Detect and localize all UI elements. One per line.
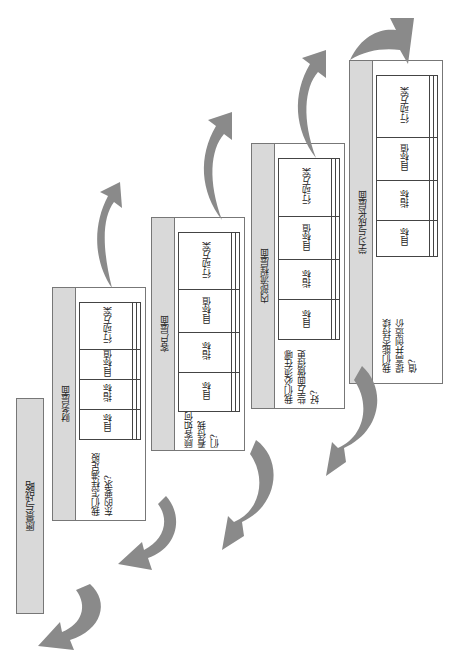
panel-customer-title: 客户层面 [157, 316, 170, 352]
panel-customer: 客户层面 行动方案 目标值 指标 目标 顾客如何看待我们? [151, 217, 245, 451]
learning-grid: 行动方案 目标值 指标 目标 [376, 75, 438, 257]
curved-arrow-icon [222, 440, 282, 550]
grid-header-cell: 目标值 [80, 349, 133, 379]
grid-header-cell: 指标 [80, 379, 133, 409]
panel-financial-title: 财务层面 [58, 386, 71, 422]
curved-arrow-icon [348, 4, 418, 64]
curved-arrow-icon [326, 366, 386, 476]
panel-learning-header: 学习与成长层面 [350, 61, 373, 383]
panel-internal-header: 内部流程层面 [252, 144, 275, 408]
panel-customer-question: 顾客如何看待我们? [176, 410, 226, 446]
financial-grid: 行动方案 目标值 指标 目标 [79, 302, 141, 440]
panel-internal-title: 内部流程层面 [257, 249, 270, 303]
vision-label: 愿景与战略 [23, 481, 38, 531]
curved-arrow-icon [30, 582, 110, 654]
panel-learning: 学习与成长层面 行动方案 目标值 指标 目标 我们能否持续提高并创造价值? [349, 60, 443, 384]
grid-header-cell: 行动方案 [80, 303, 133, 350]
curved-arrow-icon [88, 182, 128, 292]
panel-financial: 财务层面 行动方案 目标值 指标 目标 我们怎样满足股东的要求? [52, 287, 146, 521]
curved-arrow-icon [118, 496, 188, 576]
customer-grid: 行动方案 目标值 指标 目标 [178, 232, 240, 412]
curved-arrow-icon [282, 50, 332, 160]
panel-financial-header: 财务层面 [53, 288, 76, 520]
grid-header-cell: 目标 [80, 409, 133, 439]
internal-grid: 行动方案 目标值 指标 目标 [278, 158, 340, 340]
curved-arrow-icon [188, 112, 238, 222]
panel-internal-question: 我们必须在哪些方面做得更好? [276, 346, 326, 404]
panel-learning-title: 学习与成长层面 [355, 191, 368, 254]
panel-customer-header: 客户层面 [152, 218, 175, 450]
